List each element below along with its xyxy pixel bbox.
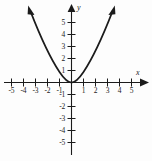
y-tick-label--1: -1 bbox=[50, 91, 65, 99]
y-tick-label-2: 2 bbox=[52, 55, 65, 63]
graph-canvas bbox=[0, 0, 152, 161]
y-tick-label--2: -2 bbox=[50, 103, 65, 111]
y-axis-label: y bbox=[77, 4, 81, 12]
x-tick-label-1: 1 bbox=[79, 87, 88, 95]
parabola-left-arrow-icon bbox=[28, 6, 35, 15]
x-axis-label: x bbox=[136, 69, 140, 77]
y-tick-label--3: -3 bbox=[50, 115, 65, 123]
y-axis-arrow-icon bbox=[68, 4, 76, 12]
x-tick-label-2: 2 bbox=[91, 87, 100, 95]
y-tick-label-4: 4 bbox=[52, 31, 65, 39]
y-tick-label-1: 1 bbox=[52, 67, 65, 75]
x-axis-arrow-icon bbox=[140, 79, 149, 87]
x-tick-label-4: 4 bbox=[115, 87, 124, 95]
y-tick-label-3: 3 bbox=[52, 43, 65, 51]
y-tick-label-5: 5 bbox=[52, 19, 65, 27]
y-tick-label--4: -4 bbox=[50, 127, 65, 135]
x-tick-label-3: 3 bbox=[103, 87, 112, 95]
y-tick-label--5: -5 bbox=[50, 139, 65, 147]
parabola-right-arrow-icon bbox=[108, 6, 115, 15]
x-tick-label-5: 5 bbox=[127, 87, 136, 95]
parabola-graph-figure: -5 -4 -3 -2 -1 1 2 3 4 5 5 4 3 2 1 -1 -2… bbox=[0, 0, 152, 161]
